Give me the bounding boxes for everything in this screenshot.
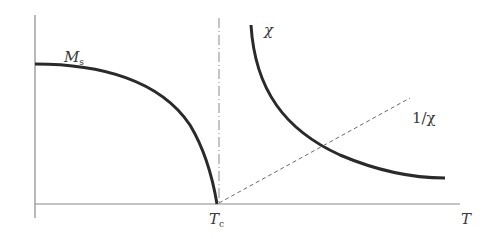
magnetization-susceptibility-diagram: Ms χ 1/χ Tc T: [0, 0, 500, 239]
susceptibility-curve: [251, 25, 445, 178]
x-axis-label: T: [461, 210, 472, 228]
magnetization-label: Ms: [63, 48, 84, 67]
magnetization-curve: [35, 64, 217, 204]
critical-temperature-label: Tc: [209, 210, 224, 229]
susceptibility-label: χ: [263, 21, 274, 39]
inverse-susceptibility-line: [219, 98, 410, 203]
inverse-susceptibility-label: 1/χ: [412, 109, 436, 127]
